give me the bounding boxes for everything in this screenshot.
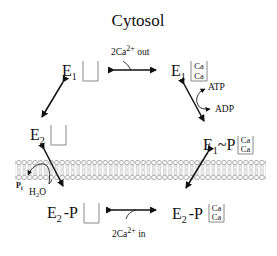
double-arrow-icon	[42, 82, 63, 117]
atp-in-curve	[197, 91, 201, 105]
empty-binding-pocket-icon	[84, 203, 99, 223]
enzyme-label: E1	[62, 62, 77, 82]
ca-out-label: 2Ca2+ out	[111, 44, 150, 57]
enzyme-label: E1	[171, 62, 186, 82]
atp-arrow-icon	[201, 89, 205, 91]
compartment-title: Cytosol	[112, 11, 165, 30]
bound-ca-2: Ca	[241, 144, 251, 154]
h2o-label: H2O	[29, 187, 46, 198]
transition-ca-release: 2Ca2+ in	[112, 210, 156, 239]
state-e2p-empty: E2-P	[47, 203, 99, 224]
pi-label: Pi	[16, 181, 23, 191]
transition-ca-binding: 2Ca2+ out	[111, 44, 156, 70]
state-e2-empty: E2	[30, 125, 66, 146]
state-e2p-ca-bound: E2-P Ca Ca	[172, 203, 224, 225]
state-e1p-ca-bound: E1~P Ca Ca	[203, 135, 253, 156]
curved-arrow-icon	[126, 210, 136, 219]
empty-binding-pocket-icon	[83, 61, 98, 81]
state-e1-ca-bound: E1 Ca Ca	[171, 61, 207, 82]
atp-label: ATP	[208, 82, 225, 92]
ca-in-label: 2Ca2+ in	[112, 226, 146, 239]
adp-label: ADP	[215, 104, 234, 114]
adp-arrow-icon	[198, 105, 210, 109]
enzyme-label: E2	[30, 126, 45, 146]
ca-atpase-cycle-diagram: Cytosol E1 E1 Ca Ca E1~P Ca Ca E2-P Ca C…	[0, 0, 277, 256]
double-arrow-icon	[184, 84, 204, 121]
enzyme-label: E2-P	[172, 205, 203, 225]
state-e1-empty: E1	[62, 61, 98, 82]
curved-arrow-icon	[123, 61, 131, 70]
bound-ca-1: Ca	[194, 61, 204, 71]
transition-phosphorylation: ATP ADP	[184, 82, 234, 121]
bound-ca-2: Ca	[194, 71, 204, 81]
transition-e2-to-e1	[42, 82, 63, 117]
lipid-bilayer-membrane	[15, 160, 266, 180]
enzyme-label: E2-P	[47, 204, 78, 224]
empty-binding-pocket-icon	[51, 125, 66, 145]
bound-ca-2: Ca	[212, 212, 222, 222]
